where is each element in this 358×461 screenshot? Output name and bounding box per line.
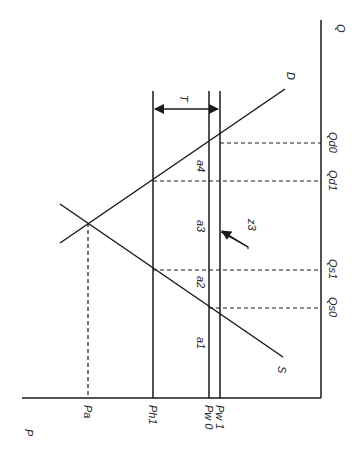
demand-label: D [285,72,297,80]
p-axis-label: P [23,429,35,437]
qd0-label: Qd0 [327,132,339,154]
qs1-label: Qs1 [327,259,339,279]
area-a1-label: a1 [195,337,207,349]
area-a2-label: a2 [195,276,207,288]
z3-pointer [221,232,248,249]
area-a3-label: a3 [195,220,207,233]
area-a4-label: a4 [195,160,207,172]
qd1-label: Qd1 [327,170,339,191]
ph1-label: Ph1 [147,405,159,425]
area-z3-label: z3 [246,218,258,232]
pw1-label: Pw 1 [214,405,226,429]
q-axis-label: Q [335,24,347,33]
qs0-label: Qs0 [327,297,339,318]
supply-label: S [276,366,288,374]
z3-arrow [222,231,248,247]
pa-label: Pa [82,405,94,418]
tariff-label: T [178,95,190,103]
pw0-label: Pw 0 [203,405,215,430]
tariff-diagram: Q P D S T Pa Ph1 Pw 0 Pw 1 Qd0 Qd1 Qs1 Q… [0,0,358,461]
